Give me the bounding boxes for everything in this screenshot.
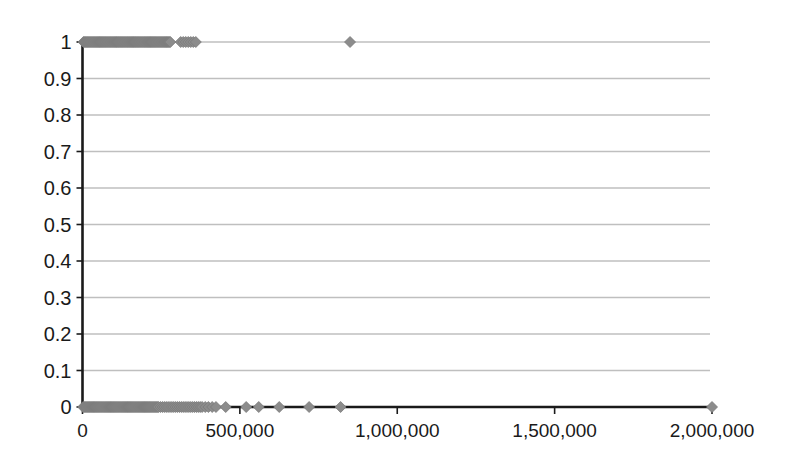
data-point-marker [707, 402, 718, 413]
y-axis-tick-label: 0.9 [44, 69, 72, 89]
data-point-marker [253, 402, 264, 413]
y-axis-tick-label: 0.5 [44, 215, 72, 235]
data-point-marker [345, 37, 356, 48]
y-axis-tick-label: 1 [60, 32, 71, 52]
y-axis-tick-label: 0.2 [44, 324, 72, 344]
y-axis-tick-label: 0.1 [44, 361, 72, 381]
scatter-chart: 00.10.20.30.40.50.60.70.80.91 0500,0001,… [0, 0, 794, 461]
y-axis-tick-label: 0.7 [44, 142, 72, 162]
x-axis-tick-label: 2,000,000 [612, 421, 794, 440]
data-point-marker [304, 402, 315, 413]
data-point-marker [220, 402, 231, 413]
y-axis-tick-label: 0 [60, 397, 71, 417]
data-point-marker [274, 402, 285, 413]
data-point-marker [335, 402, 346, 413]
y-axis-tick-label: 0.4 [44, 251, 72, 271]
y-axis-tick-label: 0.6 [44, 178, 72, 198]
plot-area [0, 0, 794, 461]
y-axis-tick-label: 0.8 [44, 105, 72, 125]
data-point-marker [241, 402, 252, 413]
gridlines [83, 42, 711, 371]
y-axis-tick-label: 0.3 [44, 288, 72, 308]
